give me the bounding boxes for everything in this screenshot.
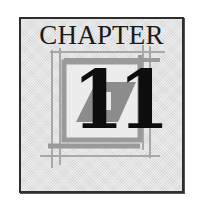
chapter-number: 11 xyxy=(73,60,132,140)
